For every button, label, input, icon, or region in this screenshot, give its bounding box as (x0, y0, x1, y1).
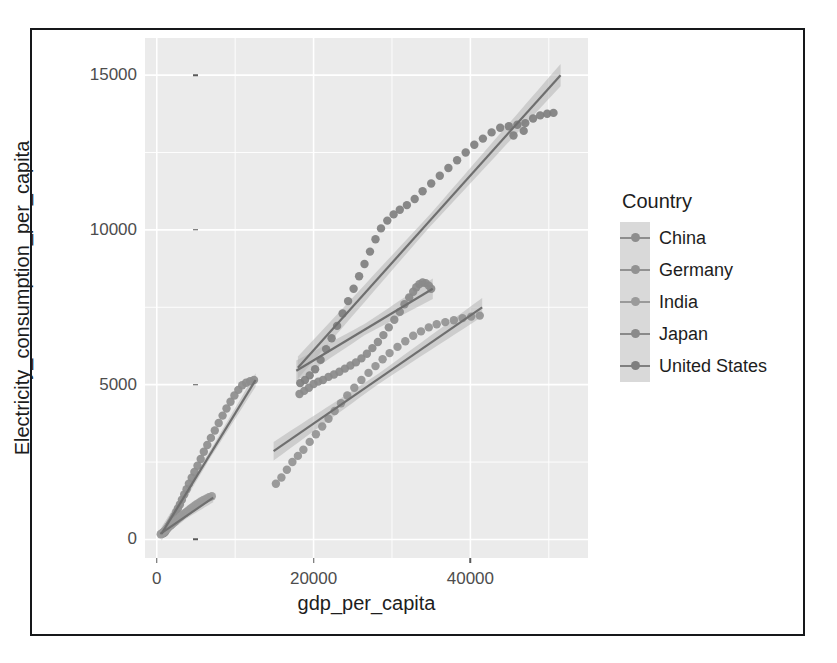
data-point (378, 355, 386, 363)
data-point (197, 455, 205, 463)
data-point (371, 362, 379, 370)
data-point (444, 164, 452, 172)
data-point (211, 426, 219, 434)
data-point (355, 272, 363, 280)
data-point (377, 224, 385, 232)
data-point (427, 179, 435, 187)
data-point (385, 349, 393, 357)
data-point (312, 430, 320, 438)
data-point (360, 260, 368, 268)
y-tick-label: 15000 (90, 65, 137, 85)
legend-title: Country (622, 190, 810, 213)
data-point (203, 441, 211, 449)
data-point (350, 384, 358, 392)
legend-item-india[interactable]: India (620, 286, 810, 318)
data-point (479, 134, 487, 142)
y-axis-ticks: 050001000015000 (55, 38, 137, 558)
data-point (520, 127, 528, 135)
legend-item-label: United States (659, 356, 767, 377)
data-point (393, 343, 401, 351)
data-point (215, 419, 223, 427)
legend-dot-icon (631, 297, 640, 306)
data-point (385, 323, 393, 331)
legend-item-united-states[interactable]: United States (620, 350, 810, 382)
data-point (470, 141, 478, 149)
data-point (390, 316, 398, 324)
data-point (476, 311, 484, 319)
legend-dot-icon (631, 329, 640, 338)
data-point (344, 297, 352, 305)
data-point (409, 332, 417, 340)
legend-item-china[interactable]: China (620, 222, 810, 254)
plot-panel (145, 38, 588, 558)
data-point (487, 128, 495, 136)
data-point (401, 337, 409, 345)
legend-key-icon (620, 318, 650, 350)
y-tick-mark (193, 74, 198, 76)
data-point (218, 411, 226, 419)
data-point (364, 369, 372, 377)
data-point (366, 247, 374, 255)
y-tick-mark (193, 384, 198, 386)
y-tick-label: 10000 (90, 220, 137, 240)
data-point (521, 119, 529, 127)
data-point (417, 327, 425, 335)
legend-item-label: China (659, 228, 706, 249)
legend-item-label: India (659, 292, 698, 313)
data-point (509, 131, 517, 139)
y-tick-label: 0 (128, 529, 137, 549)
data-point (425, 323, 433, 331)
legend-item-label: Japan (659, 324, 708, 345)
data-point (318, 422, 326, 430)
x-tick-mark (156, 558, 158, 563)
legend-items: ChinaGermanyIndiaJapanUnited States (620, 222, 810, 382)
x-tick-mark (470, 558, 472, 563)
legend: Country ChinaGermanyIndiaJapanUnited Sta… (620, 190, 810, 382)
y-axis-title: Electricity_consumption_per_capita (11, 141, 34, 456)
data-point (379, 331, 387, 339)
data-point (496, 124, 504, 132)
fit-line-india (160, 498, 213, 534)
legend-key-icon (620, 350, 650, 382)
x-tick-label: 40000 (447, 569, 494, 589)
plot-canvas (145, 38, 588, 558)
data-point (349, 285, 357, 293)
legend-key-icon (620, 254, 650, 286)
fit-line-china (161, 380, 255, 534)
legend-item-label: Germany (659, 260, 733, 281)
data-point (441, 318, 449, 326)
legend-dot-icon (631, 233, 640, 242)
y-tick-label: 5000 (99, 375, 137, 395)
legend-item-japan[interactable]: Japan (620, 318, 810, 350)
data-point (433, 320, 441, 328)
x-tick-label: 20000 (290, 569, 337, 589)
legend-item-germany[interactable]: Germany (620, 254, 810, 286)
data-point (283, 466, 291, 474)
data-point (207, 434, 215, 442)
y-tick-mark (193, 539, 198, 541)
legend-key-icon (620, 286, 650, 318)
data-point (536, 111, 544, 119)
data-point (418, 187, 426, 195)
data-point (436, 172, 444, 180)
x-tick-mark (313, 558, 315, 563)
x-axis-title: gdp_per_capita (145, 592, 588, 615)
data-point (277, 473, 285, 481)
data-point (371, 235, 379, 243)
legend-dot-icon (631, 361, 640, 370)
data-point (383, 216, 391, 224)
chart-figure: 050001000015000 02000040000 gdp_per_capi… (0, 0, 837, 663)
legend-key-icon (620, 222, 650, 254)
data-point (306, 438, 314, 446)
data-point (453, 156, 461, 164)
data-point (450, 316, 458, 324)
y-tick-mark (193, 229, 198, 231)
data-point (311, 365, 319, 373)
data-point (357, 376, 365, 384)
data-point (396, 206, 404, 214)
x-tick-label: 0 (152, 569, 161, 589)
data-point (327, 334, 335, 342)
legend-dot-icon (631, 265, 640, 274)
data-point (549, 109, 557, 117)
data-point (403, 201, 411, 209)
